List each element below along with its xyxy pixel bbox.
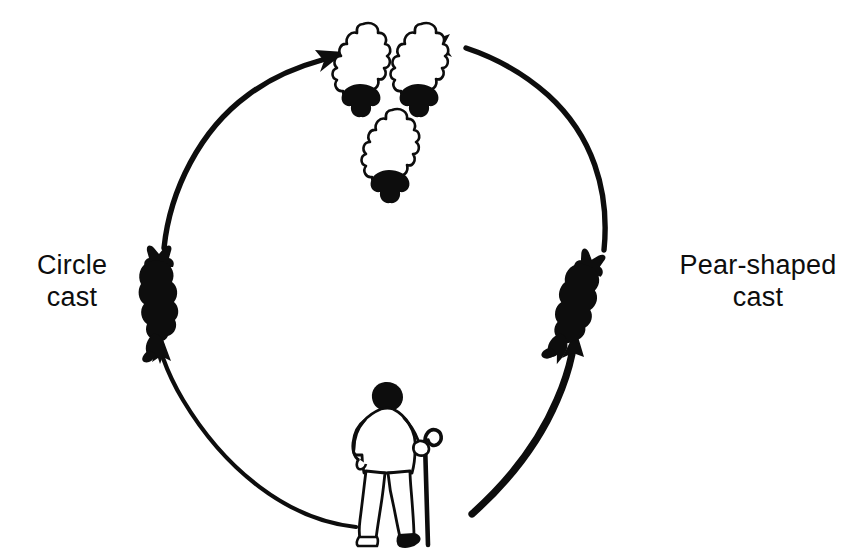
- arrow-circle-cast-to-sheep: [164, 50, 345, 248]
- diagram-canvas: Circle cast Pear-shaped cast: [0, 0, 864, 556]
- shepherd-with-crook-icon: [353, 382, 441, 547]
- label-pear-shaped-cast: Pear-shaped cast: [652, 250, 864, 314]
- sheep-flock-icon: [333, 23, 449, 203]
- label-circle-cast: Circle cast: [6, 250, 138, 314]
- sheep-icon: [333, 23, 391, 117]
- arrow-shepherd-to-pear-cast: [472, 330, 584, 514]
- sheep-icon: [362, 109, 420, 203]
- dog-silhouette-icon: [139, 246, 179, 364]
- sheep-icon: [391, 23, 449, 117]
- arrow-pear-cast-to-sheep: [422, 34, 605, 250]
- arrow-shepherd-to-circle-cast: [152, 334, 356, 527]
